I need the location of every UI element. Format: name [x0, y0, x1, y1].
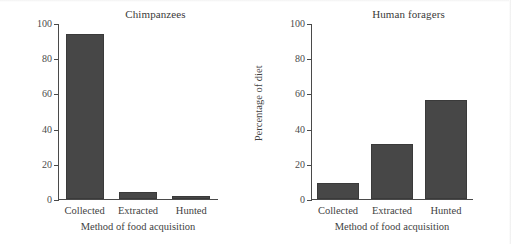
y-axis-tick — [54, 165, 59, 166]
plot-area-human-foragers: 020406080100CollectedExtractedHunted — [311, 24, 473, 200]
y-axis-tick-label: 20 — [42, 160, 52, 170]
bar-extracted — [119, 192, 157, 199]
x-axis-label-human-foragers: Method of food acquisition — [311, 222, 473, 233]
bar-collected — [317, 183, 359, 199]
y-axis-tick-label: 0 — [300, 195, 305, 205]
figure-two-panel-bar-charts: Chimpanzees Percentage of feeding time 0… — [0, 0, 511, 244]
y-axis-tick — [54, 59, 59, 60]
y-axis-tick-label: 40 — [295, 125, 305, 135]
bar-hunted — [425, 100, 467, 199]
bar-collected — [66, 34, 104, 199]
y-axis-tick-label: 80 — [42, 54, 52, 64]
y-axis-tick — [307, 200, 312, 201]
x-axis-category-label: Collected — [65, 206, 105, 217]
x-axis-category-label: Extracted — [118, 206, 158, 217]
y-axis-tick-label: 0 — [47, 195, 52, 205]
y-axis-line-human-foragers — [311, 24, 312, 200]
y-axis-tick — [54, 200, 59, 201]
y-axis-tick-label: 60 — [295, 89, 305, 99]
x-axis-label-chimpanzees: Method of food acquisition — [58, 222, 218, 233]
x-axis-category-label: Collected — [318, 206, 358, 217]
y-axis-line-chimpanzees — [58, 24, 59, 200]
y-axis-tick — [54, 24, 59, 25]
y-axis-tick — [54, 130, 59, 131]
x-axis-line-chimpanzees — [58, 199, 218, 200]
x-axis-category-label: Hunted — [176, 206, 207, 217]
plot-area-chimpanzees: 020406080100CollectedExtractedHunted — [58, 24, 218, 200]
panel-chimpanzees: Chimpanzees Percentage of feeding time 0… — [0, 0, 255, 244]
y-axis-tick — [307, 24, 312, 25]
x-axis-category-label: Extracted — [372, 206, 412, 217]
bar-extracted — [371, 144, 413, 199]
y-axis-tick — [307, 59, 312, 60]
y-axis-tick-label: 20 — [295, 160, 305, 170]
y-axis-tick-label: 80 — [295, 54, 305, 64]
bar-hunted — [172, 196, 210, 199]
y-axis-tick — [54, 94, 59, 95]
x-axis-category-label: Hunted — [431, 206, 462, 217]
y-axis-tick — [307, 94, 312, 95]
y-axis-tick-label: 100 — [37, 19, 52, 29]
panel-human-foragers: Human foragers Percentage of diet 020406… — [255, 0, 510, 244]
y-axis-tick-label: 40 — [42, 125, 52, 135]
y-axis-tick — [307, 130, 312, 131]
y-axis-tick — [307, 165, 312, 166]
x-axis-line-human-foragers — [311, 199, 473, 200]
y-axis-tick-label: 60 — [42, 89, 52, 99]
y-axis-tick-label: 100 — [290, 19, 305, 29]
